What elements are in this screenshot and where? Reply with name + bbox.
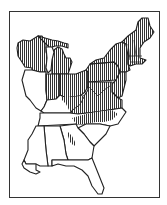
state-florida	[52, 158, 104, 194]
range-map	[0, 0, 167, 205]
state-illinois	[22, 70, 47, 111]
state-mississippi	[24, 126, 48, 166]
state-ohio	[60, 70, 88, 98]
state-pennsylvania	[86, 62, 120, 82]
